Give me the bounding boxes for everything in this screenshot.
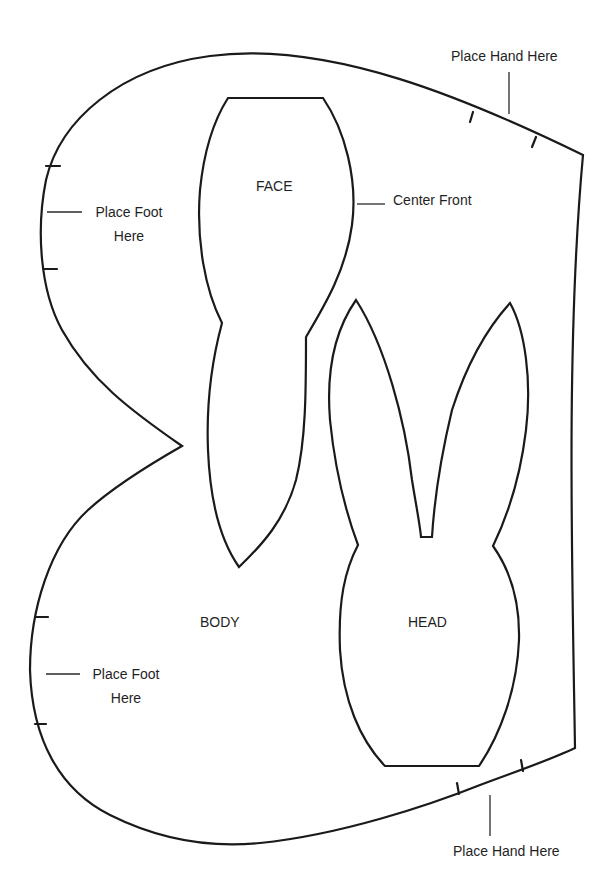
- head-outline: [329, 300, 528, 766]
- annotation-foot-bottom: Place Foot Here: [83, 666, 169, 707]
- annotation-foot-top: Place Foot Here: [86, 204, 172, 245]
- face-outline: [199, 98, 353, 567]
- annotation-foot-bottom-line2: Here: [83, 690, 169, 707]
- notch-hand-top-2: [532, 137, 536, 147]
- annotation-foot-top-line1: Place Foot: [86, 204, 172, 221]
- annotation-hand-top: Place Hand Here: [451, 48, 558, 65]
- face-label: FACE: [256, 178, 293, 195]
- head-label: HEAD: [408, 614, 447, 631]
- notch-hand-top-1: [470, 112, 473, 122]
- annotation-foot-top-line2: Here: [86, 228, 172, 245]
- annotation-center-front: Center Front: [393, 192, 472, 209]
- notch-hand-bottom-1: [457, 783, 459, 794]
- annotation-hand-bottom: Place Hand Here: [453, 843, 560, 860]
- annotation-foot-bottom-line1: Place Foot: [83, 666, 169, 683]
- pattern-drawing: [0, 0, 616, 896]
- body-label: BODY: [200, 614, 240, 631]
